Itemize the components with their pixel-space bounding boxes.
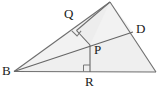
vertex-label-Q: Q xyxy=(64,7,73,20)
geometry-diagram-svg xyxy=(0,0,161,103)
geometry-figure: B Q P D R xyxy=(0,0,161,103)
vertex-label-D: D xyxy=(136,22,145,35)
vertex-label-R: R xyxy=(85,75,94,88)
side-BC xyxy=(14,72,156,73)
vertex-label-B: B xyxy=(2,64,11,77)
vertex-label-P: P xyxy=(94,43,101,56)
